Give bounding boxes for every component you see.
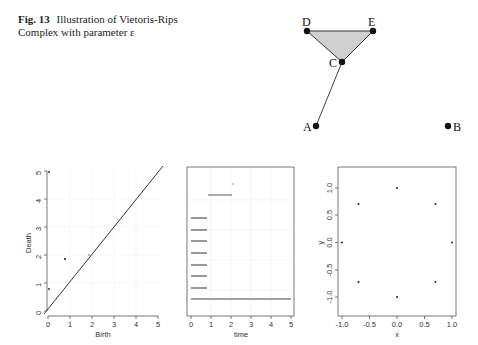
diagonal-line bbox=[44, 166, 163, 314]
xtick-0: 0 bbox=[46, 320, 50, 329]
vertex-c bbox=[339, 59, 345, 65]
y-axis-label: y bbox=[316, 240, 325, 244]
xtick-2: 2 bbox=[90, 320, 94, 329]
label-e: E bbox=[368, 15, 375, 29]
x-axis-label: time bbox=[234, 330, 248, 339]
label-b: B bbox=[453, 120, 461, 134]
ytick-neg05: -0.5 bbox=[325, 264, 334, 277]
xtick-4: 4 bbox=[269, 320, 273, 329]
xtick-3: 3 bbox=[249, 320, 253, 329]
edge-c-a bbox=[316, 62, 342, 126]
ytick-0: 0.0 bbox=[325, 237, 334, 247]
ytick-0: 0 bbox=[34, 311, 43, 315]
label-c: C bbox=[329, 56, 337, 70]
ytick-3: 3 bbox=[34, 227, 43, 231]
scatter-point bbox=[358, 203, 360, 205]
persistence-diagram: 0 1 2 3 4 5 0 1 2 3 4 5 Birth Death bbox=[24, 166, 163, 339]
scatter-frame bbox=[338, 167, 456, 316]
xtick-2: 2 bbox=[229, 320, 233, 329]
xtick-0: 0 bbox=[189, 320, 193, 329]
ytick-neg1: -1.0 bbox=[325, 291, 334, 304]
xtick-4: 4 bbox=[134, 320, 138, 329]
diagram-point bbox=[88, 254, 90, 256]
scatter-point bbox=[396, 296, 398, 298]
filled-simplex bbox=[307, 31, 373, 62]
xtick-1: 1 bbox=[209, 320, 213, 329]
scatter-point bbox=[358, 281, 360, 283]
xtick-0: 0.0 bbox=[392, 320, 402, 329]
diagram-point bbox=[64, 258, 66, 260]
ytick-5: 5 bbox=[34, 171, 43, 175]
xtick-05: 0.5 bbox=[419, 320, 429, 329]
scatter-point bbox=[451, 242, 453, 244]
x-axis-label: x bbox=[395, 330, 399, 339]
vertex-a bbox=[313, 123, 319, 129]
xtick-1: 1 bbox=[68, 320, 72, 329]
label-d: D bbox=[302, 15, 311, 29]
xtick-neg05: -0.5 bbox=[363, 320, 376, 329]
xtick-5: 5 bbox=[289, 320, 293, 329]
x-axis-label: Birth bbox=[95, 330, 110, 339]
xtick-3: 3 bbox=[112, 320, 116, 329]
ytick-2: 2 bbox=[34, 255, 43, 259]
rips-complex-diagram: D E C A B 0 1 2 3 4 5 0 1 2 3 bbox=[0, 0, 478, 345]
vertex-b bbox=[445, 123, 451, 129]
persistence-barcode: 0 1 2 3 4 5 time bbox=[187, 167, 294, 339]
label-a: A bbox=[303, 120, 312, 134]
xtick-1: 1.0 bbox=[447, 320, 457, 329]
ytick-05: 0.5 bbox=[325, 210, 334, 220]
xtick-neg1: -1.0 bbox=[336, 320, 349, 329]
y-axis-label: Death bbox=[24, 233, 33, 253]
diagram-point bbox=[48, 288, 50, 290]
xtick-5: 5 bbox=[156, 320, 160, 329]
scatter-point bbox=[435, 203, 437, 205]
ytick-1: 1 bbox=[34, 283, 43, 287]
ytick-4: 4 bbox=[34, 199, 43, 203]
scatter-point bbox=[341, 242, 343, 244]
scatter-point bbox=[396, 187, 398, 189]
scatter-point bbox=[435, 281, 437, 283]
diagram-point bbox=[48, 171, 50, 173]
point-cloud-plot: -1.0 -0.5 0.0 0.5 1.0 -1.0 -0.5 0.0 0.5 … bbox=[316, 167, 457, 339]
ytick-1: 1.0 bbox=[325, 183, 334, 193]
